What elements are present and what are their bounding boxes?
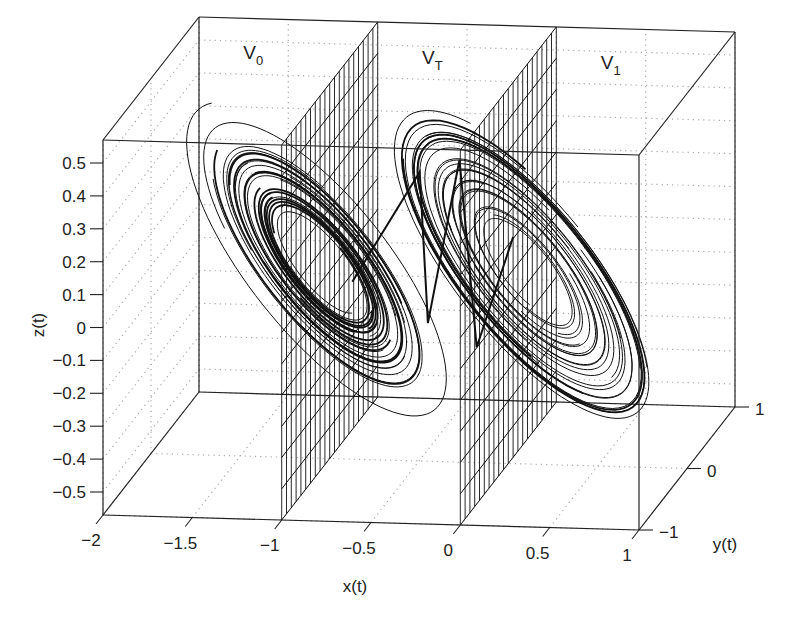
z-tick-label: 0.2 — [62, 253, 86, 272]
z-tick-label: 0.4 — [62, 187, 86, 206]
z-tick-label: 0.3 — [62, 220, 86, 239]
x-tick — [96, 515, 103, 524]
x-tick — [275, 520, 282, 529]
region-label-t: VT — [422, 47, 443, 73]
box-edge — [103, 140, 639, 155]
axes-box-front — [103, 17, 735, 530]
grid-line — [199, 369, 735, 384]
z-tick-label: −0.1 — [52, 351, 86, 370]
z-tick-label: −0.2 — [52, 384, 86, 403]
grid-line — [199, 172, 735, 187]
grid-line — [103, 139, 199, 262]
grid-line — [199, 336, 735, 351]
z-tick-label: −0.4 — [52, 450, 86, 469]
grid-line — [103, 40, 199, 163]
boundary-plane-x-minus-1 — [282, 22, 378, 520]
boundary-plane-x-0 — [460, 27, 556, 525]
x-tick — [364, 523, 371, 532]
grid-line — [103, 369, 199, 492]
z-axis-label: z(t) — [29, 313, 48, 338]
z-tick-label: 0 — [77, 319, 86, 338]
x-axis-label: x(t) — [343, 577, 368, 596]
y-axis-label: y(t) — [713, 535, 738, 554]
dotted-grid — [103, 17, 735, 530]
box-edge — [639, 32, 735, 155]
grid-line — [550, 405, 646, 528]
3d-trajectory-plot: 0.50.40.30.20.10−0.1−0.2−0.3−0.4−0.5−2−1… — [0, 0, 787, 622]
x-tick-label: 0.5 — [526, 544, 550, 563]
x-tick — [543, 528, 550, 537]
y-tick-label: 1 — [755, 400, 764, 419]
grid-line — [199, 73, 735, 88]
x-tick — [185, 518, 192, 527]
axes-box-back — [103, 17, 735, 515]
region-label-0: V0 — [243, 42, 263, 68]
z-tick-label: 0.1 — [62, 286, 86, 305]
x-tick-label: −1.5 — [164, 534, 198, 553]
x-tick-label: −2 — [81, 531, 100, 550]
grid-line — [371, 400, 467, 523]
trajectory-path — [394, 111, 648, 419]
box-edge — [103, 392, 199, 515]
box-edge — [103, 17, 199, 140]
boundary-planes — [282, 22, 557, 525]
x-tick — [453, 525, 460, 534]
region-labels: V0VTV1 — [243, 42, 620, 78]
z-tick-label: 0.5 — [62, 154, 86, 173]
trajectory — [187, 103, 649, 418]
z-tick-label: −0.3 — [52, 417, 86, 436]
x-tick-label: 0 — [444, 541, 453, 560]
grid-line — [199, 40, 735, 55]
y-tick-label: 0 — [707, 462, 716, 481]
trajectory-path — [187, 103, 447, 416]
axis-ticks: 0.50.40.30.20.10−0.1−0.2−0.3−0.4−0.5−2−1… — [52, 154, 764, 565]
x-tick — [632, 530, 639, 539]
y-tick-label: −1 — [659, 523, 678, 542]
region-label-1: V1 — [601, 52, 621, 78]
x-tick-label: 1 — [622, 546, 631, 565]
z-tick-label: −0.5 — [52, 483, 86, 502]
x-tick-label: −0.5 — [342, 539, 376, 558]
x-tick-label: −1 — [260, 536, 279, 555]
